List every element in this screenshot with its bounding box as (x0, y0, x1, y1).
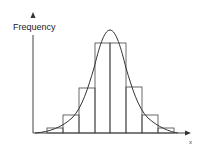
histogram-bars (47, 43, 174, 133)
bar-5 (110, 43, 126, 133)
bar-3 (79, 88, 95, 133)
bar-8 (158, 128, 174, 133)
x-axis-label: x (189, 139, 192, 145)
x-axis-arrow-icon (185, 131, 191, 136)
bar-2 (63, 115, 79, 133)
normal-curve (35, 30, 178, 133)
y-axis-label: Frequency (13, 22, 56, 32)
y-axis-arrow-icon (31, 12, 36, 18)
